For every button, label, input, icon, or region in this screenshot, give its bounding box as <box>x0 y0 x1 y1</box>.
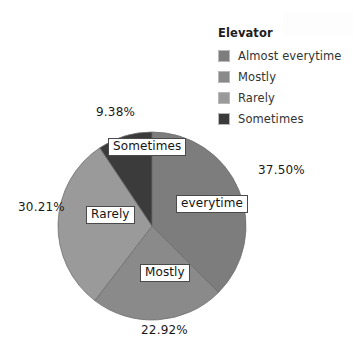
legend-swatch-icon <box>218 50 230 62</box>
legend-item-label: Rarely <box>238 91 275 105</box>
legend-item-label: Almost everytime <box>238 49 342 63</box>
pct-label-almost-everytime: 37.50% <box>258 163 305 177</box>
pct-label-rarely: 30.21% <box>18 200 65 214</box>
legend-swatch-icon <box>218 92 230 104</box>
slice-label-almost-everytime: everytime <box>176 195 248 213</box>
legend-item-rarely[interactable]: Rarely <box>218 88 353 108</box>
chart-canvas: 9.38% 37.50% 30.21% 22.92% Sometimes eve… <box>0 0 355 356</box>
legend-title: Elevator <box>218 26 353 40</box>
slice-label-rarely: Rarely <box>86 206 135 224</box>
legend-swatch-icon <box>218 71 230 83</box>
slice-label-sometimes: Sometimes <box>108 138 186 156</box>
pct-label-mostly: 22.92% <box>141 323 188 337</box>
pct-label-sometimes: 9.38% <box>96 105 135 119</box>
legend-item-mostly[interactable]: Mostly <box>218 67 353 87</box>
slice-label-mostly: Mostly <box>140 264 190 282</box>
legend-swatch-icon <box>218 113 230 125</box>
legend: Elevator Almost everytime Mostly Rarely … <box>218 26 353 130</box>
legend-item-almost-everytime[interactable]: Almost everytime <box>218 46 353 66</box>
legend-item-sometimes[interactable]: Sometimes <box>218 109 353 129</box>
legend-item-label: Sometimes <box>238 112 304 126</box>
legend-item-label: Mostly <box>238 70 276 84</box>
